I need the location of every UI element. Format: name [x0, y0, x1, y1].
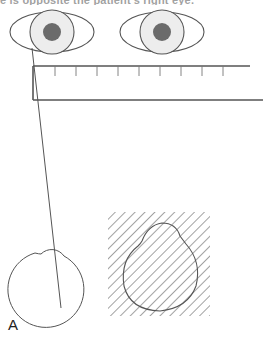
outline-shape: [8, 250, 84, 328]
panel-label: A: [8, 316, 18, 333]
diagram-canvas: [0, 0, 268, 345]
head-outline: [8, 250, 84, 328]
hatch-fill: [108, 212, 210, 316]
pupil: [153, 23, 171, 41]
ruler-ticks: [55, 66, 223, 76]
right-eye: [120, 10, 204, 54]
pupil: [43, 23, 61, 41]
left-eye: [10, 10, 94, 54]
ruler: [33, 66, 263, 100]
hatched-panel: [108, 212, 210, 316]
